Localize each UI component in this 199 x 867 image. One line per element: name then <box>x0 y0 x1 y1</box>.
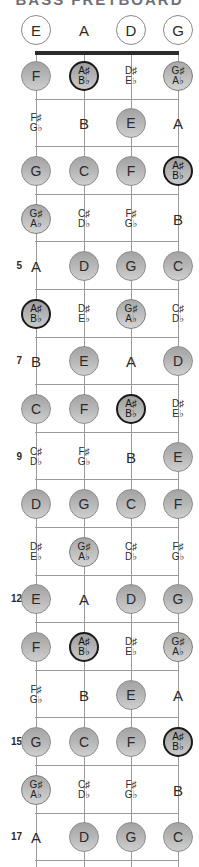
note-label: E <box>31 23 41 38</box>
note-c-fret3-string2: C <box>69 156 99 186</box>
note-f-fret1-string1: F <box>21 61 51 91</box>
note-label: E <box>126 688 135 702</box>
note-dsharp-eflat-fret8-string4: D♯E♭ <box>163 394 193 424</box>
enharmonic-stack: F♯G♭ <box>30 685 43 705</box>
enharmonic-stack: D♯E♭ <box>78 304 90 324</box>
note-e-fret2-string3: E <box>116 108 146 138</box>
note-dsharp-eflat-fret13-string3: D♯E♭ <box>116 632 146 662</box>
note-label-flat: D♭ <box>78 219 90 229</box>
open-string-note-d: D <box>116 15 146 45</box>
note-d-fret7-string4: D <box>163 346 193 376</box>
enharmonic-stack: G♯A♭ <box>172 66 185 86</box>
note-label-flat: E♭ <box>30 552 41 562</box>
note-c-fret15-string2: C <box>69 727 99 757</box>
open-string-note-a: A <box>69 15 99 45</box>
note-label: A <box>79 592 89 607</box>
open-string-note-g: G <box>163 15 193 45</box>
note-fsharp-gflat-fret2-string1: F♯G♭ <box>21 108 51 138</box>
note-label: F <box>80 402 89 416</box>
note-b-fret16-string4: B <box>163 775 193 805</box>
note-csharp-dflat-fret6-string4: C♯D♭ <box>163 299 193 329</box>
page-title-sliver: BASS FRETBOARD <box>0 0 199 5</box>
note-g-fret12-string4: G <box>163 584 193 614</box>
note-label: E <box>31 592 40 606</box>
note-d-fret12-string3: D <box>116 584 146 614</box>
enharmonic-stack: F♯G♭ <box>125 780 138 800</box>
note-label: C <box>31 402 41 416</box>
note-label-flat: D♭ <box>172 314 184 324</box>
fret-line-11 <box>35 575 179 576</box>
enharmonic-stack: D♯E♭ <box>125 637 137 657</box>
note-d-fret5-string2: D <box>69 251 99 281</box>
note-d-fret10-string1: D <box>21 489 51 519</box>
note-a-fret5-string1: A <box>21 251 51 281</box>
note-label: B <box>79 116 89 131</box>
note-d-fret17-string2: D <box>69 822 99 852</box>
enharmonic-stack: F♯G♭ <box>125 209 138 229</box>
note-label: C <box>79 164 89 178</box>
enharmonic-stack: A♯B♭ <box>172 161 184 181</box>
note-label-flat: G♭ <box>125 219 138 229</box>
enharmonic-stack: C♯D♭ <box>172 304 184 324</box>
note-label: G <box>79 497 90 511</box>
note-dsharp-eflat-fret6-string2: D♯E♭ <box>69 299 99 329</box>
note-csharp-dflat-fret11-string3: C♯D♭ <box>116 537 146 567</box>
fret-line-17 <box>35 860 179 861</box>
note-b-fret2-string2: B <box>69 108 99 138</box>
fret-line-9 <box>35 479 179 480</box>
fret-line-16 <box>35 813 179 814</box>
note-label: A <box>31 830 41 845</box>
note-label: D <box>126 592 136 606</box>
note-asharp-bflat-fret15-string4: A♯B♭ <box>163 727 193 757</box>
note-label: F <box>174 497 183 511</box>
note-label: B <box>126 450 136 465</box>
note-gsharp-aflat-fret13-string4: G♯A♭ <box>163 632 193 662</box>
enharmonic-stack: F♯G♭ <box>30 113 43 133</box>
fret-number-5: 5 <box>2 260 22 271</box>
note-label: A <box>79 23 89 38</box>
note-label-flat: B♭ <box>30 314 41 324</box>
note-label-flat: B♭ <box>172 742 183 752</box>
fret-line-3 <box>35 194 179 195</box>
fret-line-7 <box>35 384 179 385</box>
note-label-flat: B♭ <box>172 171 183 181</box>
enharmonic-stack: F♯G♭ <box>172 542 185 562</box>
open-string-note-e: E <box>21 15 51 45</box>
note-label-flat: E♭ <box>172 409 183 419</box>
note-label-flat: G♭ <box>78 457 91 467</box>
note-label-flat: A♭ <box>172 76 183 86</box>
fret-line-13 <box>35 670 179 671</box>
note-fsharp-gflat-fret4-string3: F♯G♭ <box>116 204 146 234</box>
note-label: D <box>126 23 137 38</box>
note-b-fret14-string2: B <box>69 680 99 710</box>
note-a-fret17-string1: A <box>21 822 51 852</box>
enharmonic-stack: G♯A♭ <box>172 637 185 657</box>
note-label-flat: B♭ <box>78 647 89 657</box>
note-label-flat: A♭ <box>78 552 89 562</box>
note-e-fret14-string3: E <box>116 680 146 710</box>
note-a-fret12-string2: A <box>69 584 99 614</box>
note-label-flat: A♭ <box>125 314 136 324</box>
fret-line-2 <box>35 146 179 147</box>
note-label: G <box>173 592 184 606</box>
note-b-fret9-string3: B <box>116 442 146 472</box>
note-label: G <box>31 735 42 749</box>
note-c-fret10-string3: C <box>116 489 146 519</box>
note-label-flat: A♭ <box>172 647 183 657</box>
enharmonic-stack: A♯B♭ <box>30 304 42 324</box>
note-asharp-bflat-fret13-string2: A♯B♭ <box>69 632 99 662</box>
note-a-fret14-string4: A <box>163 680 193 710</box>
note-g-fret15-string1: G <box>21 727 51 757</box>
note-gsharp-aflat-fret1-string4: G♯A♭ <box>163 61 193 91</box>
note-c-fret5-string4: C <box>163 251 193 281</box>
note-a-fret7-string3: A <box>116 346 146 376</box>
note-label: C <box>173 259 183 273</box>
note-fsharp-gflat-fret9-string2: F♯G♭ <box>69 442 99 472</box>
note-fsharp-gflat-fret14-string1: F♯G♭ <box>21 680 51 710</box>
fret-number-9: 9 <box>2 451 22 462</box>
note-label-flat: B♭ <box>78 76 89 86</box>
note-label: D <box>173 354 183 368</box>
fret-line-8 <box>35 432 179 433</box>
note-label: G <box>172 23 184 38</box>
note-label: D <box>79 259 89 273</box>
